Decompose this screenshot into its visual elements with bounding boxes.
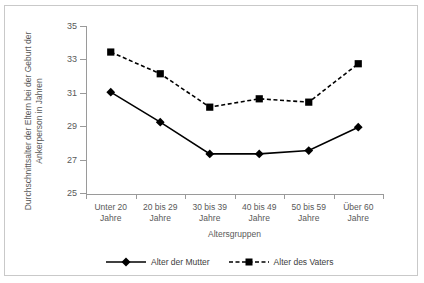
y-axis-tick	[80, 126, 86, 127]
x-axis-tick	[185, 194, 186, 199]
legend-item-mother[interactable]: Alter der Mutter	[105, 256, 210, 268]
legend-marker-square-icon	[228, 256, 270, 268]
x-axis-tick	[284, 194, 285, 199]
legend-item-father[interactable]: Alter des Vaters	[228, 256, 334, 268]
y-axis-tick	[80, 160, 86, 161]
legend-label-mother: Alter der Mutter	[151, 257, 210, 267]
data-point-marker	[354, 123, 363, 132]
y-axis-tick	[80, 26, 86, 27]
chart-frame: Durchschnittsalter der Eltern bei der Ge…	[4, 5, 418, 276]
data-point-marker	[206, 104, 213, 111]
data-point-marker	[355, 60, 362, 67]
series-line-father	[111, 52, 359, 107]
data-point-marker	[256, 95, 263, 102]
data-point-marker	[304, 146, 313, 155]
data-point-marker	[107, 48, 114, 55]
x-axis-tick	[235, 194, 236, 199]
y-axis-tick	[80, 59, 86, 60]
chart-legend: Alter der Mutter Alter des Vaters	[105, 254, 345, 270]
data-point-marker	[156, 118, 165, 127]
data-point-marker	[205, 150, 214, 159]
legend-label-father: Alter des Vaters	[274, 257, 334, 267]
legend-marker-diamond-icon	[105, 256, 147, 268]
x-axis-tick	[136, 194, 137, 199]
y-axis-tick	[80, 93, 86, 94]
x-axis-tick	[334, 194, 335, 199]
x-axis-tick	[86, 194, 87, 199]
x-axis-tick	[383, 194, 384, 199]
data-point-marker	[255, 150, 264, 159]
data-point-marker	[106, 88, 115, 97]
data-point-marker	[305, 99, 312, 106]
series-plot	[5, 6, 424, 283]
data-point-marker	[157, 70, 164, 77]
series-line-mother	[111, 92, 359, 154]
